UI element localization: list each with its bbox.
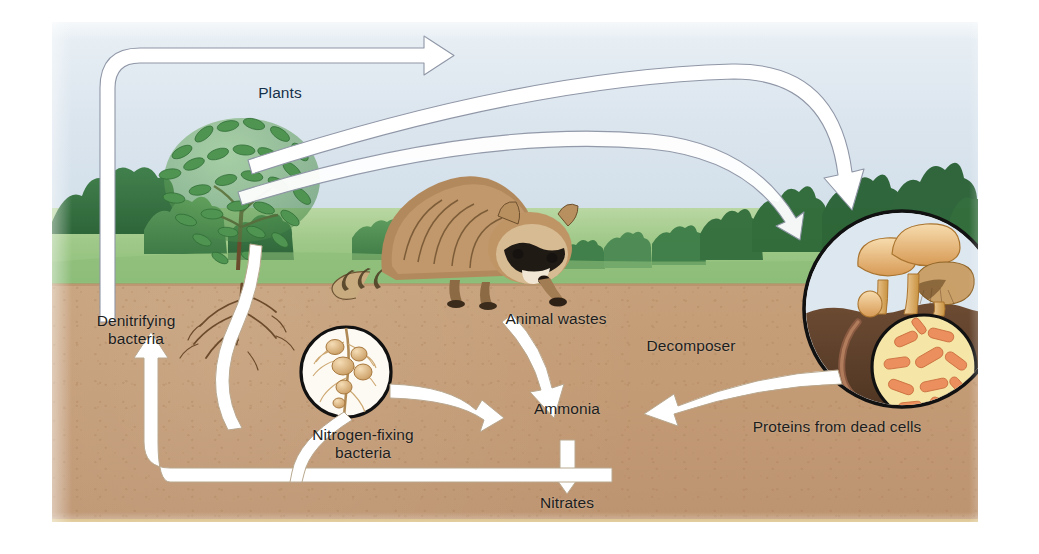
label-denitrifying-bacteria: Denitrifying bacteria [66,312,206,348]
flow-arrow-layer: .ar { fill:#ffffff; stroke:#8f96a6; stro… [52,22,978,522]
ammonia-to-nitrates-arrow [550,440,584,494]
nitrogen-cycle-diagram: .ar { fill:#ffffff; stroke:#8f96a6; stro… [0,0,1039,554]
label-ammonia: Ammonia [502,400,632,418]
denitrification-arrow [100,36,454,322]
label-nitrates: Nitrates [507,494,627,512]
label-decomposer: Decomposer [626,337,756,355]
scene: .ar { fill:#ffffff; stroke:#8f96a6; stro… [52,22,978,522]
label-plants: Plants [220,84,340,102]
label-animal-wastes: Animal wastes [476,310,636,328]
fixing-to-ammonia-arrow [390,384,504,432]
root-uptake-arrow [215,244,262,430]
label-proteins-from-dead-cells: Proteins from dead cells [712,418,962,436]
label-nitrogen-fixing-bacteria: Nitrogen-fixing bacteria [278,426,448,462]
